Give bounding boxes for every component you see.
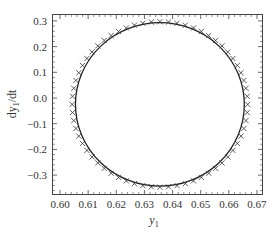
x-tick-label: 0.64 — [163, 198, 183, 210]
x-tick-label: 0.60 — [50, 198, 70, 210]
x-axis-ticks: 0.600.610.620.630.640.650.660.67 — [50, 15, 267, 211]
x-markers — [70, 19, 251, 190]
x-tick-label: 0.67 — [247, 198, 267, 210]
y-tick-label: 0.0 — [33, 92, 47, 104]
plot-frame — [53, 15, 263, 195]
x-tick-label: 0.66 — [219, 198, 239, 210]
phase-portrait-chart: 0.600.610.620.630.640.650.660.67 0.30.20… — [0, 0, 278, 232]
x-tick-label: 0.61 — [79, 198, 98, 210]
y-tick-label: 0.3 — [33, 15, 47, 27]
x-tick-label: 0.63 — [135, 198, 155, 210]
y-tick-label: −0.2 — [27, 143, 47, 155]
x-tick-label: 0.65 — [191, 198, 211, 210]
y-axis-ticks: 0.30.20.10.0−0.1−0.2−0.3 — [27, 15, 262, 191]
y-axis-label: dy1/dt — [5, 89, 21, 118]
y-tick-label: 0.1 — [33, 66, 47, 78]
solution-curve — [75, 23, 244, 186]
y-tick-label: −0.3 — [27, 169, 47, 181]
x-tick-label: 0.62 — [107, 198, 126, 210]
y-tick-label: 0.2 — [33, 41, 47, 53]
y-tick-label: −0.1 — [27, 118, 47, 130]
x-axis-label: y1 — [148, 213, 158, 229]
